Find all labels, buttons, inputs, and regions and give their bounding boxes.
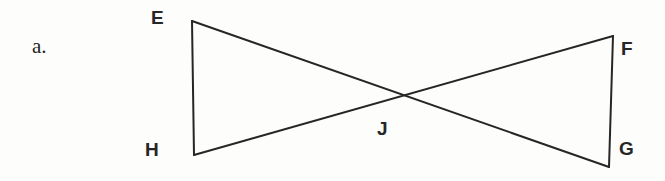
vertex-label-j: J — [377, 119, 388, 138]
item-label-a: a. — [32, 36, 47, 57]
vertex-label-g: G — [619, 139, 634, 158]
vertex-label-e: E — [151, 8, 164, 27]
vertex-label-f: F — [621, 39, 633, 58]
segment-HF — [194, 36, 613, 155]
vertex-label-h: H — [145, 140, 159, 159]
segment-EH — [192, 21, 194, 155]
geometry-figure: a. E F G H J — [0, 0, 665, 181]
segment-FG — [609, 36, 613, 167]
segment-EG — [192, 21, 609, 167]
geometry-diagram — [0, 0, 665, 181]
